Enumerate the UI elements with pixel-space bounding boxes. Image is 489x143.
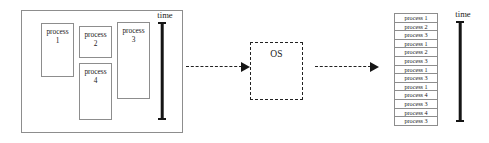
- process-box-3-number: 3: [118, 35, 149, 44]
- arrow-from-os: [315, 62, 379, 72]
- process-box-1-label: process: [42, 27, 73, 36]
- right-time-axis-shaft: [459, 21, 462, 122]
- list-item: process 3: [395, 100, 437, 109]
- process-box-4: process 4: [79, 63, 112, 120]
- right-time-axis: [455, 21, 465, 122]
- process-box-2: process 2: [79, 26, 112, 58]
- left-time-axis: [157, 22, 167, 120]
- list-item: process 2: [395, 23, 437, 32]
- os-label: OS: [270, 49, 283, 60]
- arrow-to-os-line: [186, 66, 242, 67]
- process-box-4-number: 4: [80, 76, 111, 85]
- right-time-axis-bottom-cap: [456, 120, 464, 122]
- process-box-1-number: 1: [42, 36, 73, 45]
- list-item: process 3: [395, 117, 437, 126]
- process-box-3: process 3: [117, 22, 150, 99]
- list-item: process 4: [395, 91, 437, 100]
- process-box-1: process 1: [41, 23, 74, 77]
- list-item: process 1: [395, 40, 437, 49]
- execution-schedule-list: process 1 process 2 process 3 process 1 …: [394, 13, 438, 126]
- diagram-canvas: process 1 process 2 process 3 process 4 …: [0, 0, 489, 143]
- list-item: process 3: [395, 74, 437, 83]
- left-time-axis-bottom-cap: [158, 118, 166, 120]
- list-item: process 1: [395, 83, 437, 92]
- list-item: process 3: [395, 31, 437, 40]
- left-time-axis-shaft: [161, 22, 164, 120]
- process-box-2-label: process: [80, 30, 111, 39]
- os-box: OS: [250, 42, 303, 100]
- arrow-to-os-head: [241, 62, 250, 72]
- right-time-axis-label: time: [447, 9, 479, 19]
- list-item: process 1: [395, 14, 437, 23]
- process-box-3-label: process: [118, 26, 149, 35]
- list-item: process 2: [395, 48, 437, 57]
- arrow-from-os-head: [370, 62, 379, 72]
- left-time-axis-label: time: [149, 10, 181, 20]
- arrow-to-os: [186, 62, 250, 72]
- list-item: process 3: [395, 57, 437, 66]
- arrow-from-os-line: [315, 66, 371, 67]
- process-box-2-number: 2: [80, 39, 111, 48]
- list-item: process 1: [395, 66, 437, 75]
- process-box-4-label: process: [80, 67, 111, 76]
- list-item: process 4: [395, 109, 437, 118]
